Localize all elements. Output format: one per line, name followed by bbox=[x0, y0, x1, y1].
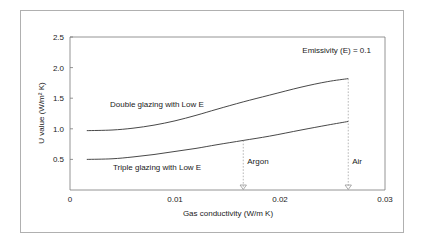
marker-argon: Argon bbox=[240, 140, 269, 189]
y-tick-label-2: 1.5 bbox=[53, 94, 65, 103]
figure-container: 0.5 1.0 1.5 2.0 2.5 0 0.01 0.02 0.03 Gas… bbox=[0, 0, 424, 245]
x-tick-label-2: 0.02 bbox=[272, 195, 288, 204]
marker-air: Air bbox=[345, 79, 362, 190]
x-tick-label-1: 0.01 bbox=[167, 195, 183, 204]
y-tick-marks bbox=[70, 37, 73, 159]
x-tick-labels: 0 0.01 0.02 0.03 bbox=[68, 195, 394, 204]
y-axis-title: U value (W/m² K) bbox=[37, 82, 46, 144]
y-tick-label-0: 0.5 bbox=[53, 155, 65, 164]
x-axis-title: Gas conductivity (W/m K) bbox=[183, 209, 274, 218]
y-tick-label-1: 1.0 bbox=[53, 125, 65, 134]
y-tick-label-3: 2.0 bbox=[53, 64, 65, 73]
x-tick-label-3: 0.03 bbox=[377, 195, 393, 204]
y-tick-label-4: 2.5 bbox=[53, 33, 65, 42]
emissivity-annotation: Emissivity (E) = 0.1 bbox=[302, 46, 371, 55]
y-tick-labels: 0.5 1.0 1.5 2.0 2.5 bbox=[53, 33, 65, 164]
x-tick-label-0: 0 bbox=[68, 195, 73, 204]
chart-plot: 0.5 1.0 1.5 2.0 2.5 0 0.01 0.02 0.03 Gas… bbox=[0, 0, 424, 245]
curve-triple-glazing bbox=[87, 121, 348, 159]
air-label: Air bbox=[352, 157, 362, 166]
series-label-triple-glazing: Triple glazing with Low E bbox=[113, 163, 201, 172]
series-label-double-glazing: Double glazing with Low E bbox=[110, 100, 204, 109]
argon-label: Argon bbox=[247, 157, 268, 166]
